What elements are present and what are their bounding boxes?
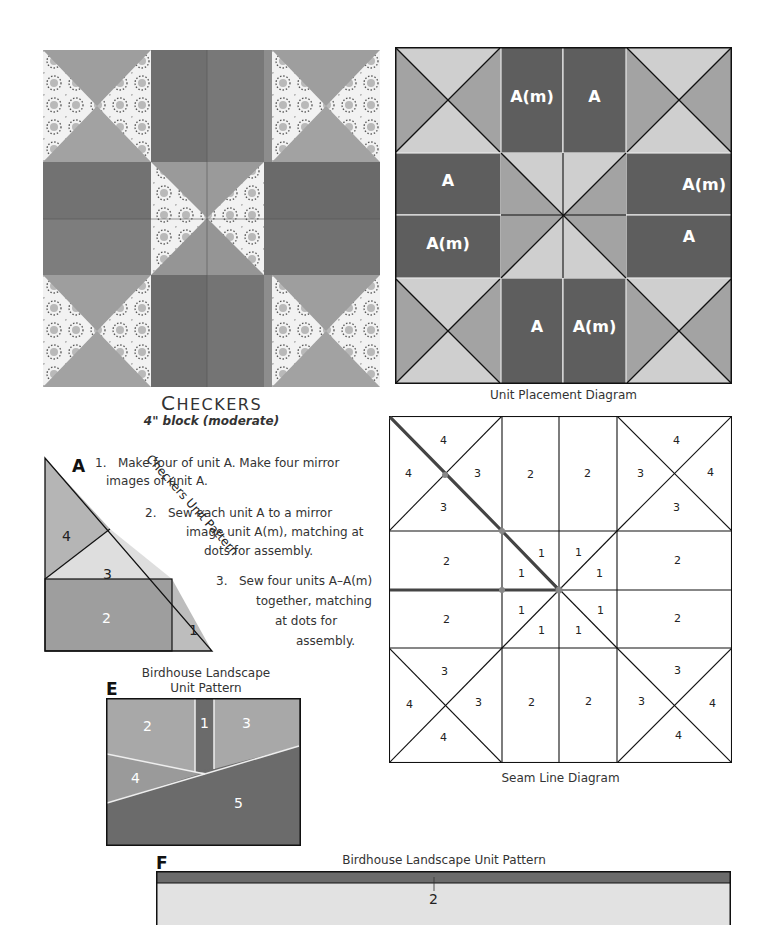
seam-line-caption: Seam Line Diagram	[389, 771, 732, 785]
unit-e-pattern: 2 1 3 4 5	[106, 698, 301, 846]
seam-label: 1	[575, 546, 582, 559]
step-1: 1. Make four of unit A. Make four mirror…	[95, 454, 339, 490]
unit-e-title: Birdhouse Landscape Unit Pattern	[106, 666, 306, 696]
checkers-block-photo	[43, 50, 380, 387]
label-a-m: A(m)	[395, 234, 501, 253]
seam-label: 3	[475, 696, 482, 709]
piece-1-label: 1	[200, 715, 209, 731]
piece-4-label: 4	[131, 770, 140, 786]
block-subtitle: 4" block (moderate)	[43, 414, 380, 428]
step-3-line3: at dots for	[275, 612, 337, 630]
seam-label: 1	[575, 624, 582, 637]
seam-label: 3	[441, 665, 448, 678]
piece-2-label: 2	[429, 891, 438, 907]
seam-label: 2	[674, 612, 681, 625]
seam-label: 2	[527, 468, 534, 481]
seam-label: 1	[538, 624, 545, 637]
label-a: A	[626, 227, 732, 246]
label-a: A	[501, 317, 563, 336]
step-2-line2: image unit A(m), matching at	[186, 523, 364, 541]
step-3: 3. Sew four units A–A(m)	[216, 572, 372, 590]
unit-placement-diagram: A(m) A A A(m) A(m) A A A(m)	[395, 47, 732, 384]
label-a-m: A(m)	[501, 87, 563, 106]
seam-label: 2	[528, 696, 535, 709]
step-2-line3: dots for assembly.	[204, 542, 313, 560]
piece-5-label: 5	[234, 795, 243, 811]
seam-label: 1	[596, 567, 603, 580]
seam-label: 3	[673, 501, 680, 514]
seam-label: 4	[673, 434, 680, 447]
seam-label: 2	[443, 613, 450, 626]
seam-label: 2	[585, 695, 592, 708]
label-a-m: A(m)	[626, 175, 732, 194]
seam-label: 3	[638, 695, 645, 708]
unit-f-title: Birdhouse Landscape Unit Pattern	[157, 853, 731, 867]
piece-2-label: 2	[143, 718, 152, 734]
seam-label: 3	[674, 664, 681, 677]
seam-label: 3	[440, 501, 447, 514]
step-3-line4: assembly.	[296, 632, 355, 650]
piece-2-label: 2	[102, 610, 111, 626]
seam-label: 4	[440, 731, 447, 744]
label-a: A	[395, 171, 501, 190]
unit-f-pattern: 2	[156, 871, 731, 925]
unit-a-letter: A	[72, 456, 85, 476]
seam-label: 2	[443, 555, 450, 568]
seam-label: 2	[674, 554, 681, 567]
step-2: 2. Sew each unit A to a mirror	[145, 504, 332, 522]
seam-label: 4	[440, 434, 447, 447]
seam-label: 1	[538, 547, 545, 560]
label-a: A	[563, 87, 626, 106]
seam-label: 4	[709, 697, 716, 710]
unit-e-letter: E	[106, 679, 118, 699]
seam-label: 1	[597, 604, 604, 617]
seam-label: 4	[406, 698, 413, 711]
seam-label: 3	[474, 467, 481, 480]
label-a-m: A(m)	[563, 317, 626, 336]
piece-1-label: 1	[189, 622, 198, 638]
seam-label: 1	[518, 567, 525, 580]
block-title: CHECKERS	[43, 391, 380, 415]
piece-3-label: 3	[242, 715, 251, 731]
seam-label: 2	[584, 467, 591, 480]
piece-4-label: 4	[62, 528, 71, 544]
seam-label: 1	[518, 604, 525, 617]
seam-label: 3	[637, 467, 644, 480]
seam-label: 4	[707, 466, 714, 479]
unit-placement-caption: Unit Placement Diagram	[395, 388, 732, 402]
step-3-line2: together, matching	[256, 592, 372, 610]
seam-label: 4	[405, 467, 412, 480]
seam-line-diagram: 4 4 3 3 2 2 3 4 4 3 2 2 2 2 1 1 1 1 1 1 …	[389, 416, 732, 763]
seam-label: 4	[675, 729, 682, 742]
piece-3-label: 3	[103, 566, 112, 582]
